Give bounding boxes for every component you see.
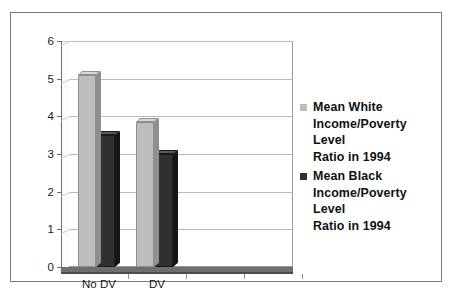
y-axis-tick bbox=[57, 192, 62, 193]
legend-black-line3: Ratio in 1994 bbox=[313, 219, 391, 233]
plot-area: 0123456 No DVDV bbox=[61, 41, 293, 267]
y-axis-tick bbox=[57, 229, 62, 230]
legend-black-line2: Income/Poverty Level bbox=[313, 186, 407, 217]
chart-legend: Mean White Income/Poverty Level Ratio in… bbox=[300, 99, 440, 237]
bar-face bbox=[78, 75, 96, 267]
legend-item-black[interactable]: Mean Black Income/Poverty Level Ratio in… bbox=[300, 168, 440, 234]
x-axis-label-no-dv: No DV bbox=[82, 278, 116, 290]
bar-side bbox=[154, 118, 159, 267]
y-axis-tick-label: 2 bbox=[48, 186, 54, 198]
x-axis-label-dv: DV bbox=[149, 278, 165, 290]
gridline bbox=[69, 41, 293, 42]
chart-frame: 0123456 No DVDV Mean White Income/Povert… bbox=[10, 12, 442, 282]
bar-white-No DV[interactable] bbox=[78, 75, 96, 267]
y-axis-tick bbox=[57, 154, 62, 155]
bar-white-DV[interactable] bbox=[136, 122, 154, 267]
y-axis-tick-label: 3 bbox=[48, 148, 54, 160]
bar-top-cap bbox=[78, 71, 100, 75]
y-axis-tick bbox=[57, 79, 62, 80]
y-axis-tick-label: 0 bbox=[48, 261, 54, 273]
bar-side bbox=[115, 131, 120, 267]
x-axis-tick bbox=[244, 274, 245, 279]
legend-white-line1: Mean White bbox=[313, 100, 383, 114]
legend-item-white[interactable]: Mean White Income/Poverty Level Ratio in… bbox=[300, 99, 440, 165]
y-axis-tick-label: 1 bbox=[48, 223, 54, 235]
bar-top-cap bbox=[136, 118, 158, 122]
x-axis-tick bbox=[186, 274, 187, 279]
gridline bbox=[69, 116, 293, 117]
x-axis-tick bbox=[128, 274, 129, 279]
legend-label-black: Mean Black Income/Poverty Level Ratio in… bbox=[313, 168, 440, 234]
x-axis-tick bbox=[302, 274, 303, 279]
y-axis-tick bbox=[57, 41, 62, 42]
white-series-swatch-icon bbox=[300, 104, 307, 111]
black-series-swatch-icon bbox=[300, 173, 307, 180]
bar-face bbox=[136, 122, 154, 267]
y-axis-tick-label: 5 bbox=[48, 73, 54, 85]
bar-side bbox=[96, 71, 101, 267]
bar-side bbox=[173, 150, 178, 267]
y-axis-tick bbox=[57, 267, 62, 268]
gridline bbox=[69, 79, 293, 80]
legend-white-line3: Ratio in 1994 bbox=[313, 150, 391, 164]
y-axis-tick-label: 6 bbox=[48, 35, 54, 47]
legend-black-line1: Mean Black bbox=[313, 169, 382, 183]
legend-label-white: Mean White Income/Poverty Level Ratio in… bbox=[313, 99, 440, 165]
plot-floor-front-edge bbox=[61, 272, 293, 274]
legend-white-line2: Income/Poverty Level bbox=[313, 117, 407, 148]
y-axis-tick bbox=[57, 116, 62, 117]
y-axis-tick-label: 4 bbox=[48, 110, 54, 122]
